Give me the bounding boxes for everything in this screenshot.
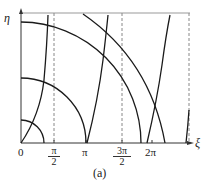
- rising-curve-2: [87, 15, 108, 143]
- rising-curve-3: [147, 15, 170, 143]
- tick-label-3pi-over-2: 3π 2: [113, 146, 131, 167]
- arc-curve-4: [83, 14, 165, 143]
- tick-label-2pi: 2π: [145, 147, 156, 158]
- tick-label-pi: π: [82, 147, 88, 158]
- figure-plot: [0, 0, 209, 185]
- tick-label-0: 0: [18, 147, 24, 158]
- figure-caption: (a): [93, 167, 106, 179]
- x-axis-label: ξ: [195, 137, 200, 149]
- arc-curve-3: [21, 22, 141, 143]
- y-axis-arrow-icon: [19, 8, 23, 14]
- tick-label-pi-over-2: π 2: [48, 146, 60, 167]
- y-axis-label: η: [4, 12, 10, 24]
- x-axis-arrow-icon: [187, 141, 194, 145]
